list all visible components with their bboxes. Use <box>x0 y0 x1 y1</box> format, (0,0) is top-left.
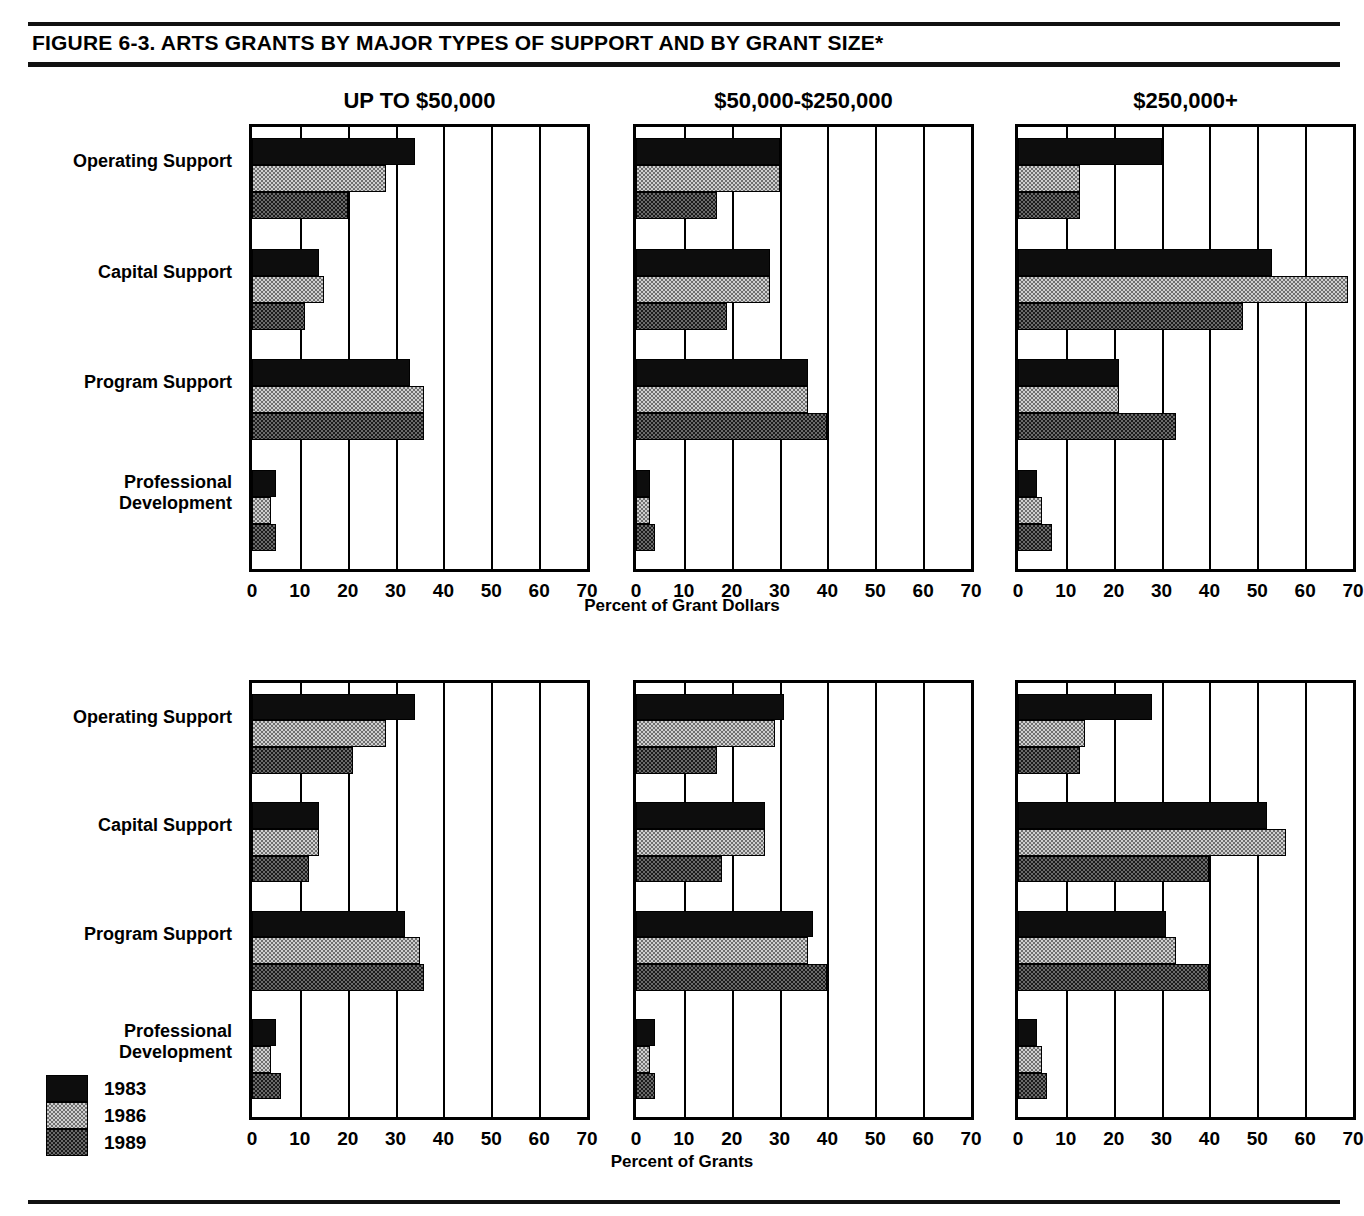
bar-1983-capital-support <box>252 802 319 829</box>
plot-area-row2-col3 <box>1015 680 1356 1120</box>
gridline-50 <box>875 683 877 1117</box>
tick-label-0: 0 <box>1013 1128 1024 1150</box>
gridline-30 <box>1162 127 1164 569</box>
bar-1986-capital-support <box>1018 829 1286 856</box>
bar-1989-program-support <box>1018 413 1176 440</box>
bar-1983-program-support <box>1018 911 1166 938</box>
gridline-50 <box>491 683 493 1117</box>
bar-1989-operating-support <box>1018 747 1080 774</box>
bar-1989-professional-development <box>252 524 276 551</box>
bar-1989-capital-support <box>1018 303 1243 330</box>
tick-label-30: 30 <box>1151 580 1172 602</box>
axis-title-top: Percent of Grant Dollars <box>584 596 780 616</box>
bar-1989-professional-development <box>636 524 655 551</box>
bar-1986-professional-development <box>636 497 650 524</box>
bar-1983-operating-support <box>636 138 780 165</box>
bar-1986-operating-support <box>1018 720 1085 747</box>
gridline-60 <box>923 683 925 1117</box>
tick-label-0: 0 <box>247 1128 258 1150</box>
gridline-50 <box>875 127 877 569</box>
bar-1983-program-support <box>1018 359 1119 386</box>
category-label-operating-support: Operating Support <box>14 151 232 172</box>
bar-1989-professional-development <box>252 1073 281 1100</box>
bar-1983-operating-support <box>252 138 415 165</box>
tick-label-40: 40 <box>817 1128 838 1150</box>
gridline-40 <box>1209 127 1211 569</box>
legend-label-1989: 1989 <box>104 1132 146 1154</box>
tick-label-50: 50 <box>481 1128 502 1150</box>
bar-1986-program-support <box>1018 937 1176 964</box>
bar-1986-program-support <box>252 386 424 413</box>
gridline-40 <box>443 127 445 569</box>
panel-title-1: UP TO $50,000 <box>249 88 590 114</box>
tick-label-20: 20 <box>1103 580 1124 602</box>
tick-label-70: 70 <box>960 580 981 602</box>
bar-1989-operating-support <box>636 747 717 774</box>
gridline-30 <box>780 683 782 1117</box>
tick-label-20: 20 <box>337 1128 358 1150</box>
tick-label-30: 30 <box>385 1128 406 1150</box>
tick-label-60: 60 <box>1295 1128 1316 1150</box>
light-stipple-swatch <box>46 1102 88 1129</box>
tick-label-40: 40 <box>433 1128 454 1150</box>
bar-1989-capital-support <box>1018 856 1209 883</box>
gridline-50 <box>1257 683 1259 1117</box>
gridline-50 <box>491 127 493 569</box>
category-label-program-support: Program Support <box>14 372 232 393</box>
gridline-30 <box>396 683 398 1117</box>
gridline-60 <box>1305 683 1307 1117</box>
x-axis-ticks-row2-col2: 010203040506070 <box>633 1128 974 1154</box>
gridline-30 <box>1162 683 1164 1117</box>
tick-label-40: 40 <box>433 580 454 602</box>
bar-1989-operating-support <box>636 192 717 219</box>
tick-label-0: 0 <box>247 580 258 602</box>
plot-area-row1-col1 <box>249 124 590 572</box>
bar-1983-professional-development <box>636 470 650 497</box>
bar-1989-professional-development <box>1018 1073 1047 1100</box>
bar-1983-professional-development <box>1018 1019 1037 1046</box>
figure-page: FIGURE 6-3. ARTS GRANTS BY MAJOR TYPES O… <box>0 0 1364 1216</box>
tick-label-60: 60 <box>913 580 934 602</box>
gridline-60 <box>1305 127 1307 569</box>
bar-1983-operating-support <box>1018 138 1162 165</box>
bar-1983-program-support <box>252 911 405 938</box>
legend-item-1986: 1986 <box>46 1102 146 1129</box>
dark-stipple-swatch <box>46 1129 88 1156</box>
bar-1986-operating-support <box>252 720 386 747</box>
tick-label-30: 30 <box>769 1128 790 1150</box>
bar-1986-capital-support <box>1018 276 1348 303</box>
tick-label-40: 40 <box>1199 580 1220 602</box>
tick-label-60: 60 <box>529 1128 550 1150</box>
plot-area-row2-col2 <box>633 680 974 1120</box>
plot-area-row1-col3 <box>1015 124 1356 572</box>
tick-label-20: 20 <box>1103 1128 1124 1150</box>
x-axis-ticks-row2-col1: 010203040506070 <box>249 1128 590 1154</box>
tick-label-50: 50 <box>865 580 886 602</box>
tick-label-70: 70 <box>960 1128 981 1150</box>
bar-1986-operating-support <box>1018 165 1080 192</box>
bar-1983-professional-development <box>252 1019 276 1046</box>
bar-1986-capital-support <box>252 829 319 856</box>
bar-1983-capital-support <box>1018 249 1272 276</box>
gridline-40 <box>827 683 829 1117</box>
tick-label-70: 70 <box>1342 580 1363 602</box>
bar-1983-operating-support <box>252 694 415 721</box>
gridline-30 <box>780 127 782 569</box>
tick-label-70: 70 <box>576 1128 597 1150</box>
bar-1983-program-support <box>636 359 808 386</box>
bar-1989-professional-development <box>1018 524 1052 551</box>
legend-item-1989: 1989 <box>46 1129 146 1156</box>
tick-label-60: 60 <box>529 580 550 602</box>
bar-1983-professional-development <box>1018 470 1037 497</box>
bar-1983-professional-development <box>636 1019 655 1046</box>
bar-1986-operating-support <box>636 165 780 192</box>
x-axis-ticks-row1-col3: 010203040506070 <box>1015 580 1356 606</box>
gridline-20 <box>1114 127 1116 569</box>
gridline-40 <box>1209 683 1211 1117</box>
tick-label-50: 50 <box>1247 1128 1268 1150</box>
bar-1989-program-support <box>636 964 827 991</box>
gridline-20 <box>348 127 350 569</box>
bar-1986-program-support <box>1018 386 1119 413</box>
bar-1983-operating-support <box>636 694 784 721</box>
legend-item-1983: 1983 <box>46 1075 146 1102</box>
